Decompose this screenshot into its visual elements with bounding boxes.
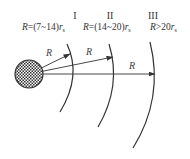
zone-numeral-i: I bbox=[73, 10, 76, 21]
zone-formula-ii: R=(14~20)rs bbox=[82, 22, 131, 33]
zone-boundary-arc-iii bbox=[133, 42, 154, 148]
zone-formula-i: R=(7~14)rs bbox=[21, 22, 66, 33]
zone-numeral-ii: II bbox=[107, 10, 114, 21]
radius-label-iii: R bbox=[128, 60, 135, 71]
central-particle bbox=[15, 60, 43, 88]
zone-numeral-iii: III bbox=[148, 10, 158, 21]
zone-label-iii: III R>20rs bbox=[148, 10, 177, 33]
zone-boundary-arc-ii bbox=[98, 44, 114, 127]
zone-label-i: I R=(7~14)rs bbox=[21, 10, 77, 33]
radius-label-ii: R bbox=[85, 46, 92, 57]
zone-label-ii: II R=(14~20)rs bbox=[82, 10, 131, 33]
radius-label-i: R bbox=[45, 47, 52, 58]
zone-boundary-arc-i bbox=[60, 44, 73, 112]
zone-diagram: I R=(7~14)rs II R=(14~20)rs III R>20rs R… bbox=[0, 0, 190, 159]
zone-formula-iii: R>20rs bbox=[149, 22, 177, 33]
